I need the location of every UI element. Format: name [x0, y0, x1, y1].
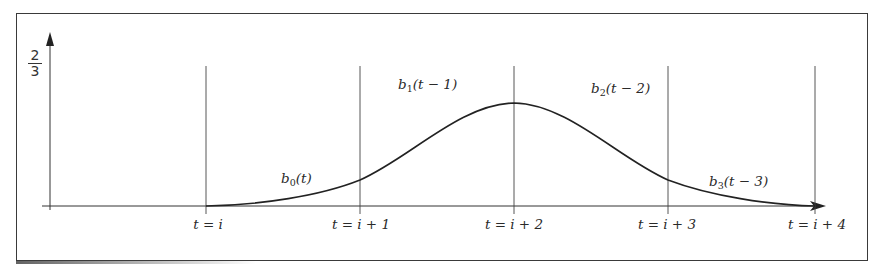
- plot-svg: [0, 0, 881, 270]
- x-tick-label: t = i + 1: [332, 216, 390, 232]
- fraction-numerator: 2: [28, 48, 42, 64]
- y-tick-two-thirds: 2 3: [28, 48, 42, 79]
- x-tick-label: t = i + 2: [485, 216, 543, 232]
- curve-label-b3: b3(t − 3): [709, 173, 768, 191]
- y-axis-arrow-icon: [46, 32, 54, 46]
- b-spline-diagram: 2 3 t = i t = i + 1 t = i + 2 t = i + 3 …: [0, 0, 881, 270]
- curve-label-b2: b2(t − 2): [591, 80, 650, 98]
- curve-label-b0: b0(t): [281, 170, 312, 188]
- x-tick-label: t = i: [193, 216, 223, 232]
- fraction-denominator: 3: [28, 64, 42, 79]
- curve-label-b1: b1(t − 1): [398, 76, 457, 94]
- x-tick-label: t = i + 4: [788, 216, 846, 232]
- x-tick-label: t = i + 3: [638, 216, 696, 232]
